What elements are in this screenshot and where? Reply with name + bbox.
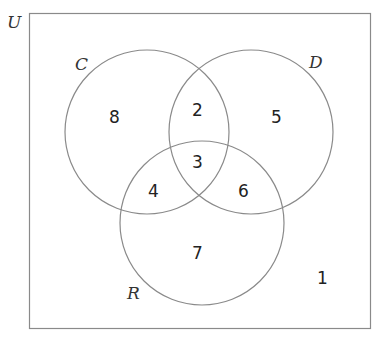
region-outside: 1	[317, 268, 328, 288]
universe-label: U	[7, 12, 22, 32]
region-c-r: 4	[148, 181, 159, 201]
set-label-r: R	[126, 283, 140, 303]
set-label-c: C	[75, 54, 88, 74]
region-d-r: 6	[238, 181, 249, 201]
region-r-only: 7	[192, 243, 203, 263]
venn-diagram: U C D R 8 2 5 3 4 6 7 1	[0, 0, 375, 338]
region-c-only: 8	[109, 107, 120, 127]
circle-c	[65, 50, 229, 214]
region-c-d: 2	[192, 100, 203, 120]
region-d-only: 5	[271, 107, 282, 127]
circle-d	[169, 50, 333, 214]
set-label-d: D	[308, 52, 323, 72]
region-c-d-r: 3	[192, 152, 203, 172]
